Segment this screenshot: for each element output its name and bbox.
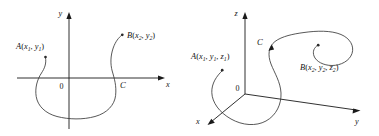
x-axis-label-2d: x: [165, 80, 170, 89]
y-axis-2d: [66, 12, 71, 129]
point-a-label-3d: A(x1, y1, z1): [190, 52, 230, 62]
three-dimensional-curve-diagram: A(x1, y1, z1) B(x2, y2, z2) C 0 z y x: [189, 0, 379, 136]
curve-c-2d: [36, 35, 122, 119]
point-b-label-2d: B(x2, y2): [127, 31, 155, 41]
point-b-marker-2d: [121, 33, 124, 36]
point-a-marker-2d: [44, 56, 47, 59]
y-axis-arrowhead-3d: [353, 109, 361, 114]
z-axis-arrowhead-3d: [242, 12, 247, 19]
two-dimensional-curve-diagram: A(x1, y1) B(x2, y2) C 0 x y: [0, 0, 190, 136]
origin-label-3d: 0: [236, 84, 240, 93]
y-axis-3d: [245, 94, 361, 114]
y-axis-label-2d: y: [58, 9, 63, 18]
x-axis-arrowhead-2d: [158, 75, 165, 80]
curve-label-c-3d: C: [257, 37, 263, 47]
origin-label-2d: 0: [60, 82, 64, 91]
curve-label-c-2d: C: [120, 80, 126, 90]
figure-root: A(x1, y1) B(x2, y2) C 0 x y: [0, 0, 379, 136]
point-a-label-2d: A(x1, y1): [15, 42, 44, 52]
curve-c-3d: [212, 31, 353, 124]
x-axis-label-3d: x: [195, 117, 200, 126]
y-axis-label-3d: y: [354, 117, 359, 126]
z-axis-3d: [242, 12, 247, 94]
point-a-marker-3d: [221, 69, 224, 72]
z-axis-label-3d: z: [234, 9, 239, 18]
point-b-label-3d: B(x2, y2, z2): [300, 63, 339, 73]
point-b-marker-3d: [317, 44, 320, 47]
y-axis-arrowhead-2d: [66, 12, 71, 19]
